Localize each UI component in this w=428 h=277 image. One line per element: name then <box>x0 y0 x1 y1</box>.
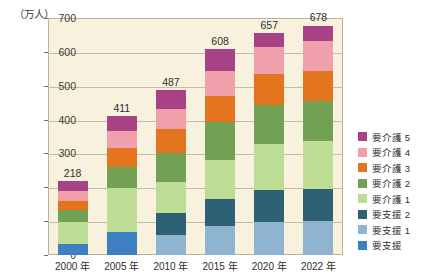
bar-total-label: 411 <box>99 102 145 114</box>
gridline <box>49 121 342 122</box>
bar-segment <box>156 235 186 255</box>
plot-area <box>48 18 343 255</box>
bar-segment <box>58 244 88 255</box>
legend-swatch-icon <box>358 132 367 141</box>
legend-item[interactable]: 要介護 2 <box>358 177 410 191</box>
legend-item-label: 要介護 2 <box>372 176 410 190</box>
y-axis-tick-mark <box>44 120 48 121</box>
legend-item[interactable]: 要支援 <box>358 239 410 253</box>
y-axis-tick-mark <box>44 153 48 154</box>
bar-segment <box>205 160 235 200</box>
bar-segment <box>156 153 186 182</box>
legend-swatch-icon <box>358 210 367 219</box>
y-axis-tick-label: 300 <box>36 147 76 159</box>
legend-swatch-icon <box>358 225 367 234</box>
bar-segment <box>58 222 88 245</box>
bar-segment <box>107 148 137 166</box>
legend-swatch-icon <box>358 194 367 203</box>
y-axis-tick-mark <box>44 18 48 19</box>
gridline <box>49 87 342 88</box>
bar-segment <box>156 182 186 212</box>
bar-segment <box>303 221 333 255</box>
bar-segment <box>156 129 186 153</box>
y-axis-tick-mark <box>44 52 48 53</box>
legend-item-label: 要支援 <box>372 238 402 252</box>
bar-segment <box>107 116 137 132</box>
bar-segment <box>156 90 186 109</box>
bar-segment <box>254 105 284 144</box>
y-axis-tick-label: 600 <box>36 46 76 58</box>
bar-total-label: 608 <box>197 35 243 47</box>
stacked-bar-chart: （万人） 01002003004005006007002000 年2005 年2… <box>0 0 428 277</box>
legend-swatch-icon <box>358 163 367 172</box>
y-axis-tick-mark <box>44 255 48 256</box>
bar-segment <box>254 74 284 105</box>
legend-item-label: 要介護 3 <box>372 161 410 175</box>
bar-total-label: 657 <box>246 19 292 31</box>
bar-stack <box>58 181 88 255</box>
bar-stack <box>107 116 137 255</box>
bar-segment <box>58 210 88 221</box>
legend-item-label: 要介護 1 <box>372 192 410 206</box>
bar-segment <box>107 167 137 188</box>
bar-segment <box>303 141 333 189</box>
bar-segment <box>205 71 235 96</box>
gridline <box>49 188 342 189</box>
bar-segment <box>205 199 235 225</box>
x-axis-tick-label: 2022 年 <box>288 258 348 273</box>
y-axis-tick-mark <box>44 86 48 87</box>
bar-segment <box>107 188 137 233</box>
bar-segment <box>303 71 333 102</box>
y-axis-tick-mark <box>44 187 48 188</box>
bar-segment <box>303 189 333 221</box>
legend-item[interactable]: 要支援 2 <box>358 208 410 222</box>
y-axis-tick-label: 400 <box>36 114 76 126</box>
legend-item[interactable]: 要介護 5 <box>358 130 410 144</box>
bar-total-label: 487 <box>148 76 194 88</box>
gridline <box>49 53 342 54</box>
gridline <box>49 222 342 223</box>
bar-segment <box>303 26 333 42</box>
bar-segment <box>205 96 235 123</box>
y-axis-tick-label: 700 <box>36 12 76 24</box>
bar-segment <box>254 47 284 75</box>
bar-segment <box>205 226 235 255</box>
bar-stack <box>156 90 186 255</box>
y-axis-tick-mark <box>44 221 48 222</box>
y-axis-tick-label: 500 <box>36 80 76 92</box>
bar-segment <box>254 222 284 255</box>
bar-segment <box>58 201 88 211</box>
bar-segment <box>205 49 235 71</box>
legend-item-label: 要支援 2 <box>372 207 410 221</box>
bar-total-label: 678 <box>295 11 341 23</box>
legend-item[interactable]: 要介護 3 <box>358 161 410 175</box>
bar-segment <box>156 109 186 130</box>
bar-segment <box>254 33 284 47</box>
chart-legend: 要介護 5要介護 4要介護 3要介護 2要介護 1要支援 2要支援 1要支援 <box>358 130 410 252</box>
legend-swatch-icon <box>358 179 367 188</box>
bar-stack <box>254 33 284 255</box>
bar-stack <box>303 26 333 256</box>
bar-segment <box>205 122 235 159</box>
legend-item-label: 要支援 1 <box>372 223 410 237</box>
bar-segment <box>254 190 284 222</box>
bar-segment <box>254 144 284 190</box>
bar-segment <box>107 232 137 255</box>
bar-stack <box>205 49 235 255</box>
legend-item-label: 要介護 5 <box>372 130 410 144</box>
bar-segment <box>107 131 137 148</box>
gridline <box>49 154 342 155</box>
legend-item[interactable]: 要介護 1 <box>358 192 410 206</box>
bar-segment <box>58 191 88 201</box>
legend-swatch-icon <box>358 241 367 250</box>
legend-item[interactable]: 要支援 1 <box>358 223 410 237</box>
legend-swatch-icon <box>358 148 367 157</box>
bar-total-label: 218 <box>50 167 96 179</box>
legend-item-label: 要介護 4 <box>372 145 410 159</box>
bar-segment <box>156 213 186 235</box>
bar-segment <box>58 181 88 190</box>
legend-item[interactable]: 要介護 4 <box>358 146 410 160</box>
bar-segment <box>303 41 333 70</box>
bar-segment <box>303 101 333 141</box>
